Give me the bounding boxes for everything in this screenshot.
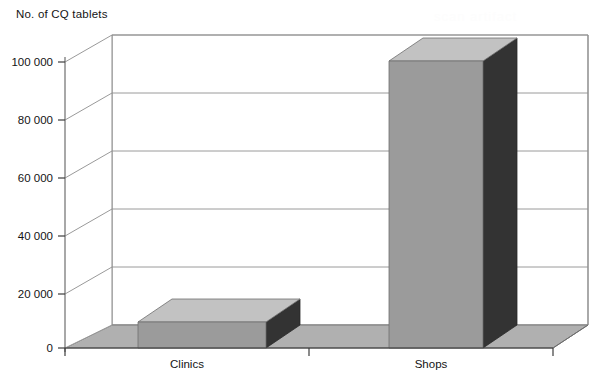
chart-container: No. of CQ tablets scan artifact	[0, 0, 605, 386]
y-axis-ticks	[58, 62, 65, 348]
bar-shops-front-face	[389, 61, 483, 348]
y-tick-label-80000: 80 000	[18, 114, 53, 126]
y-tick-label-20000: 20 000	[18, 288, 53, 300]
bar-chart-plot: 100 000 80 000 60 000 40 000 20 000 0	[0, 0, 605, 386]
bar-shops-side-face	[483, 38, 517, 348]
bar-shops[interactable]	[389, 38, 517, 348]
x-category-label-clinics: Clinics	[170, 358, 204, 370]
bar-clinics-front-face	[138, 322, 266, 348]
chart-left-depth-wall	[65, 35, 112, 348]
y-tick-label-40000: 40 000	[18, 230, 53, 242]
bar-clinics[interactable]	[138, 299, 300, 348]
y-tick-label-100000: 100 000	[11, 56, 53, 68]
x-axis-ticks	[65, 348, 553, 356]
y-tick-label-0: 0	[47, 342, 53, 354]
y-tick-label-60000: 60 000	[18, 172, 53, 184]
x-category-label-shops: Shops	[415, 358, 448, 370]
